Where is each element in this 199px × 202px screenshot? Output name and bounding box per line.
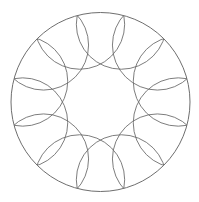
petal-circles: [0, 0, 199, 202]
petal-circle: [0, 0, 89, 90]
rosette-diagram: [0, 0, 199, 202]
petal-circle: [35, 135, 125, 202]
petal-circle: [35, 0, 125, 69]
petal-circle: [0, 36, 68, 126]
petal-circle: [0, 78, 68, 168]
petal-circle: [76, 0, 166, 69]
outer-circle: [11, 13, 190, 192]
petal-circle: [0, 114, 89, 202]
petal-circle: [76, 135, 166, 202]
